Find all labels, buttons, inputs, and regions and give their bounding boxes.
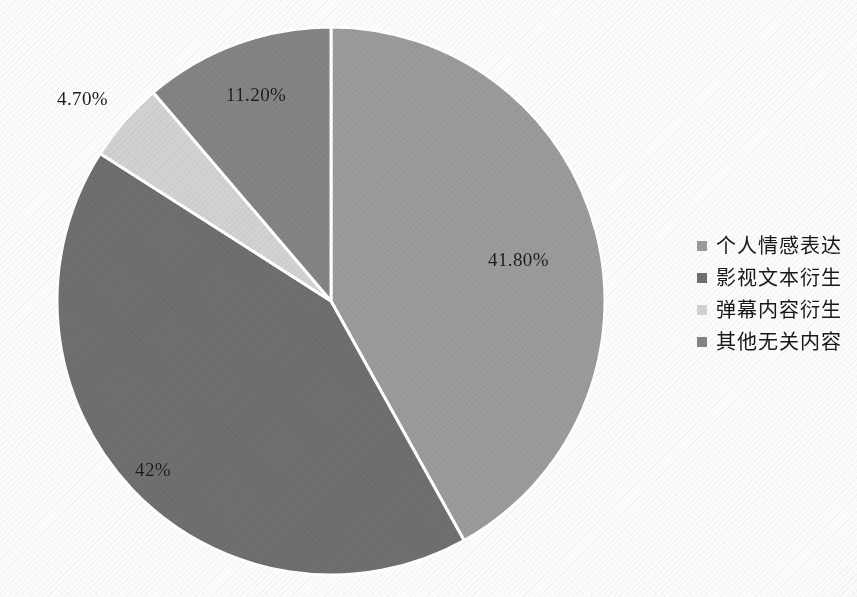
- pie-slice-value-label: 4.70%: [57, 88, 108, 110]
- legend-color-swatch-icon: [697, 273, 707, 283]
- legend-item[interactable]: 其他无关内容: [697, 330, 842, 354]
- legend-color-swatch-icon: [697, 305, 707, 315]
- legend-item-label: 个人情感表达: [716, 234, 842, 258]
- pie-slice-value-label: 42%: [135, 459, 171, 481]
- legend-item[interactable]: 弹幕内容衍生: [697, 298, 842, 322]
- legend-color-swatch-icon: [697, 337, 707, 347]
- pie-slice-value-label: 11.20%: [226, 84, 286, 106]
- legend-item-label: 其他无关内容: [716, 330, 842, 354]
- legend-item[interactable]: 影视文本衍生: [697, 266, 842, 290]
- chart-page: 41.80%42%4.70%11.20% 个人情感表达影视文本衍生弹幕内容衍生其…: [0, 0, 857, 597]
- chart-legend: 个人情感表达影视文本衍生弹幕内容衍生其他无关内容: [697, 234, 842, 354]
- legend-item[interactable]: 个人情感表达: [697, 234, 842, 258]
- pie-slice-value-label: 41.80%: [488, 249, 549, 271]
- legend-color-swatch-icon: [697, 241, 707, 251]
- pie-slice-group: [57, 27, 605, 575]
- legend-item-label: 弹幕内容衍生: [716, 298, 842, 322]
- legend-item-label: 影视文本衍生: [716, 266, 842, 290]
